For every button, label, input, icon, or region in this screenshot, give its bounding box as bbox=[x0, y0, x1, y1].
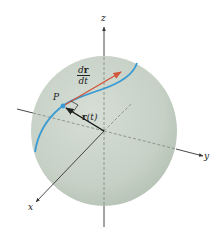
tangent-denominator: dt bbox=[77, 76, 90, 86]
position-vector-label: r(t) bbox=[82, 113, 97, 122]
tangent-numerator: dr bbox=[77, 66, 90, 76]
point-p bbox=[61, 104, 66, 109]
position-vector-arg: (t) bbox=[87, 112, 98, 122]
y-axis-label: y bbox=[204, 152, 209, 161]
y-axis bbox=[176, 149, 203, 156]
z-axis-label: z bbox=[101, 14, 106, 23]
neg-y-axis-outer bbox=[17, 109, 33, 113]
sphere-diagram bbox=[0, 0, 224, 242]
tangent-vector-label: dr dt bbox=[77, 66, 90, 86]
x-axis-label: x bbox=[28, 203, 33, 212]
point-p-label: P bbox=[53, 93, 59, 102]
tangent-numerator-r: r bbox=[84, 65, 89, 75]
